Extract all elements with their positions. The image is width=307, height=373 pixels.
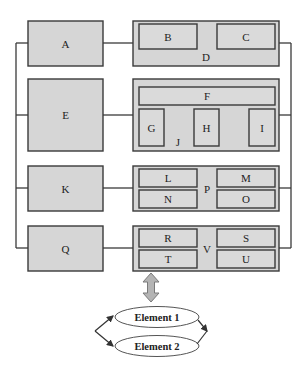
- element-1[interactable]: Element 1: [115, 307, 199, 328]
- group-d[interactable]: B C D: [133, 21, 279, 66]
- element-2[interactable]: Element 2: [115, 336, 199, 357]
- box-c-label: C: [242, 31, 249, 43]
- box-o-label: O: [242, 193, 250, 205]
- group-p[interactable]: L M N O P: [133, 166, 279, 211]
- box-k-label: K: [62, 183, 70, 195]
- box-i-label: I: [260, 122, 264, 134]
- double-arrow-icon: [143, 273, 159, 302]
- box-k[interactable]: K: [28, 166, 103, 211]
- box-q[interactable]: Q: [28, 226, 103, 271]
- group-v-label: V: [203, 243, 211, 255]
- right-bus: [279, 43, 291, 248]
- box-l-label: L: [165, 172, 172, 184]
- box-h-label: H: [203, 122, 211, 134]
- box-b-label: B: [164, 31, 171, 43]
- row-connectors: [103, 43, 133, 248]
- box-n-label: N: [164, 193, 172, 205]
- box-t-label: T: [165, 253, 172, 265]
- group-j[interactable]: F G H I J: [133, 79, 279, 151]
- box-q-label: Q: [62, 243, 70, 255]
- group-j-label: J: [176, 136, 181, 148]
- left-bus: [16, 43, 28, 248]
- box-s-label: S: [243, 232, 249, 244]
- box-f-label: F: [204, 90, 210, 102]
- group-d-label: D: [202, 51, 210, 63]
- group-v[interactable]: R S T U V: [133, 226, 279, 271]
- box-a[interactable]: A: [28, 21, 103, 66]
- box-m-label: M: [241, 172, 251, 184]
- diagram-canvas: A B C D E F G H I J K L M N O: [0, 0, 307, 373]
- box-a-label: A: [62, 38, 70, 50]
- group-p-label: P: [204, 183, 210, 195]
- box-e[interactable]: E: [28, 79, 103, 151]
- element-1-label: Element 1: [134, 312, 179, 323]
- box-u-label: U: [242, 253, 250, 265]
- box-e-label: E: [62, 109, 69, 121]
- box-r-label: R: [164, 232, 172, 244]
- element-2-label: Element 2: [134, 341, 179, 352]
- box-g-label: G: [148, 122, 156, 134]
